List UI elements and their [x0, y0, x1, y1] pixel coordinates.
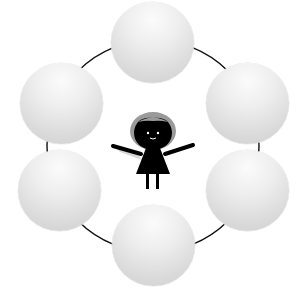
node-top	[111, 2, 194, 83]
node-bottom-left	[18, 150, 101, 231]
node-top-left	[20, 63, 103, 144]
cycle-diagram	[0, 0, 305, 301]
node-top-right	[206, 63, 289, 144]
girl-character-icon	[108, 108, 198, 193]
node-bottom	[112, 205, 195, 286]
node-bottom-right	[206, 150, 289, 231]
